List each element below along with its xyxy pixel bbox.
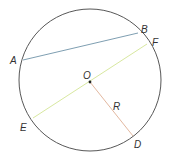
label-r: R bbox=[113, 101, 120, 112]
label-o: O bbox=[83, 70, 91, 81]
label-f: F bbox=[152, 37, 159, 48]
chord-ab bbox=[23, 33, 138, 60]
circle-diagram: A B F O R E D bbox=[0, 0, 173, 158]
label-a: A bbox=[9, 55, 17, 66]
label-d: D bbox=[134, 139, 141, 150]
radius-od bbox=[90, 82, 133, 136]
center-dot bbox=[89, 81, 92, 84]
label-e: E bbox=[20, 122, 27, 133]
label-b: B bbox=[141, 24, 148, 35]
